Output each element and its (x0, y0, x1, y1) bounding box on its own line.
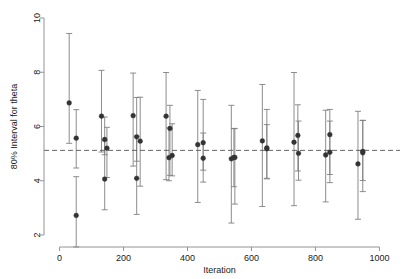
errorbar (163, 73, 169, 180)
x-axis-tick-label: 800 (308, 253, 323, 263)
data-point (356, 162, 361, 167)
errorbar (130, 73, 136, 166)
data-point (327, 132, 332, 137)
data-point (323, 153, 328, 158)
data-point (295, 133, 300, 138)
errorbar (264, 109, 270, 178)
data-point (74, 136, 79, 141)
errorbar (200, 133, 206, 170)
data-point (327, 150, 332, 155)
data-point (168, 126, 173, 131)
data-point (360, 149, 365, 154)
y-axis-tick-label: 6 (32, 124, 42, 129)
y-axis-title: 80% Interval for theta (9, 84, 19, 170)
data-point (99, 114, 104, 119)
data-point (201, 156, 206, 161)
errorbar (259, 84, 265, 206)
data-point (260, 138, 265, 143)
data-point (170, 153, 175, 158)
x-axis-tick-label: 600 (244, 253, 259, 263)
data-point (102, 177, 107, 182)
data-point (231, 155, 236, 160)
errorbar (291, 73, 297, 206)
y-axis-tick-label: 8 (32, 70, 42, 75)
y-axis-tick-label: 2 (32, 232, 42, 237)
x-axis-tick-label: 1000 (369, 253, 389, 263)
data-point-layer (67, 101, 365, 218)
data-point (105, 146, 110, 151)
errorbar (73, 177, 79, 247)
data-point (102, 137, 107, 142)
y-axis-tick-label: 10 (32, 13, 42, 23)
data-point (131, 113, 136, 118)
data-point (195, 142, 200, 147)
x-axis-title: Iteration (203, 265, 236, 275)
data-point (134, 176, 139, 181)
data-point (164, 114, 169, 119)
errorbar (66, 33, 72, 143)
chart-plot: 24681002004006008001000Iteration80% Inte… (0, 0, 404, 279)
data-point (138, 139, 143, 144)
data-point (74, 213, 79, 218)
chart-container: 24681002004006008001000Iteration80% Inte… (0, 0, 404, 279)
errorbar (228, 105, 234, 223)
x-axis-tick-label: 200 (116, 253, 131, 263)
data-point (296, 151, 301, 156)
data-point (264, 146, 269, 151)
data-point (67, 101, 72, 106)
y-axis-tick-label: 4 (32, 178, 42, 183)
errorbar (134, 136, 140, 214)
x-axis-tick-label: 400 (180, 253, 195, 263)
errorbar (232, 128, 238, 204)
data-point (201, 140, 206, 145)
errorbar-layer (66, 33, 366, 246)
errorbar (327, 121, 333, 174)
x-axis-tick-label: 0 (57, 253, 62, 263)
data-point (292, 140, 297, 145)
data-point (134, 134, 139, 139)
